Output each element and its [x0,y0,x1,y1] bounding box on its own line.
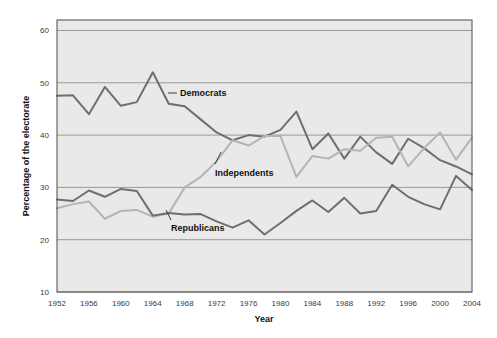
democrats-label: Democrats [180,88,227,98]
x-tick-2004: 2004 [463,299,481,308]
x-tick-1988: 1988 [335,299,353,308]
y-tick-40: 40 [40,131,49,140]
x-tick-2000: 2000 [431,299,449,308]
x-tick-1964: 1964 [144,299,162,308]
line-chart: 102030405060 195219561960196419681972197… [0,0,497,338]
independents-label: Independents [215,168,274,178]
x-tick-1960: 1960 [112,299,130,308]
y-axis-title: Percentage of the electorate [21,96,31,217]
x-tick-1956: 1956 [80,299,98,308]
x-tick-1984: 1984 [303,299,321,308]
x-tick-1992: 1992 [367,299,385,308]
x-tick-1968: 1968 [176,299,194,308]
republicans-label: Republicans [171,223,225,233]
x-tick-1996: 1996 [399,299,417,308]
x-tick-1952: 1952 [48,299,66,308]
x-tick-1980: 1980 [272,299,290,308]
y-tick-10: 10 [40,288,49,297]
y-tick-30: 30 [40,183,49,192]
y-tick-60: 60 [40,26,49,35]
chart-container: 102030405060 195219561960196419681972197… [0,0,497,338]
plot-area-background [57,20,472,292]
y-tick-50: 50 [40,79,49,88]
x-tick-1972: 1972 [208,299,226,308]
x-axis-title: Year [254,314,274,324]
x-tick-1976: 1976 [240,299,258,308]
y-tick-20: 20 [40,236,49,245]
